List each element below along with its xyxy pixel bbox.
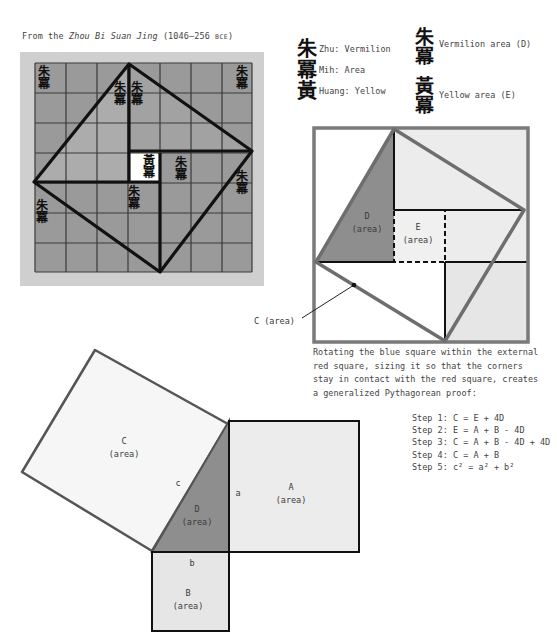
svg-text:(area): (area) [182,517,213,527]
svg-text:c: c [175,478,180,488]
svg-text:(area): (area) [109,449,140,459]
svg-text:D: D [194,504,199,514]
svg-text:a: a [235,488,240,498]
pythagoras-diagram: C (area) c D (area) a A (area) b B (area… [0,0,557,639]
svg-text:b: b [189,558,194,568]
svg-text:(area): (area) [173,601,204,611]
svg-text:(area): (area) [276,495,307,505]
svg-text:B: B [185,588,190,598]
square-A [229,421,359,552]
svg-text:C: C [121,436,126,446]
svg-text:A: A [288,482,293,492]
